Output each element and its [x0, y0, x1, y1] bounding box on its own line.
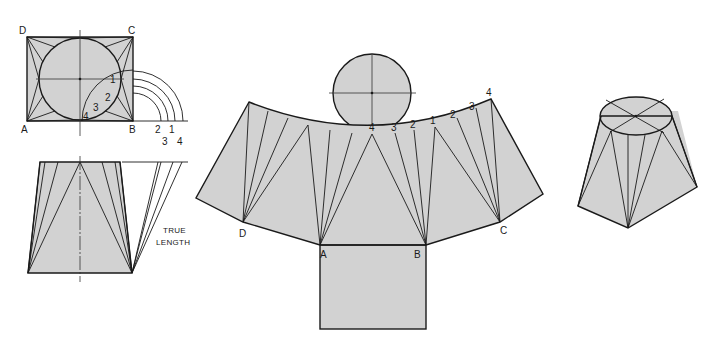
label-tl-3: 3: [162, 136, 168, 147]
top-view: D C A B 1 2 3 4 2 1 3 4: [19, 25, 188, 147]
label-pattern-2b: 2: [450, 109, 456, 120]
label-tl-4: 4: [177, 136, 183, 147]
label-pattern-2a: 2: [410, 119, 416, 130]
drawing-canvas: D C A B 1 2 3 4 2 1 3 4: [0, 0, 727, 338]
label-top-B: B: [129, 124, 136, 135]
true-length-caption-2: LENGTH: [156, 238, 190, 247]
label-pattern-1: 1: [430, 115, 436, 126]
label-tl-2: 2: [155, 124, 161, 135]
label-top-2: 2: [105, 92, 111, 103]
label-pattern-3a: 3: [391, 122, 397, 133]
label-top-A: A: [21, 124, 28, 135]
label-pattern-C: C: [500, 225, 507, 236]
label-pattern-B: B: [414, 249, 421, 260]
label-top-1: 1: [110, 74, 116, 85]
true-length-diagram: TRUE LENGTH: [122, 162, 190, 273]
label-top-C: C: [128, 25, 135, 36]
label-pattern-A: A: [320, 249, 327, 260]
label-pattern-4a: 4: [369, 122, 375, 133]
label-top-D: D: [19, 25, 26, 36]
label-pattern-3b: 3: [469, 101, 475, 112]
front-view: [28, 156, 132, 282]
revolution-arcs: [133, 71, 183, 121]
label-top-4: 4: [83, 111, 89, 122]
label-pattern-D: D: [239, 228, 246, 239]
label-top-3: 3: [93, 102, 99, 113]
pictorial-view: [578, 97, 697, 228]
development-pattern: D A B C 4 3 2 1 2 3 4: [196, 54, 543, 329]
label-pattern-4b: 4: [486, 87, 492, 98]
label-tl-1: 1: [169, 124, 175, 135]
true-length-caption-1: TRUE: [163, 226, 186, 235]
